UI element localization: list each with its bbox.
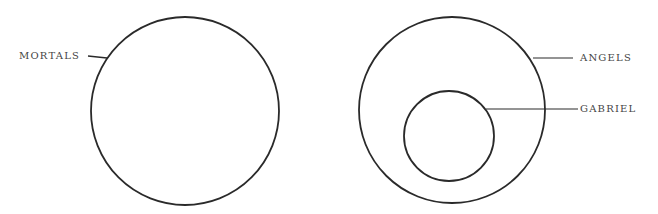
mortals-circle [91,17,279,205]
angels-label: ANGELS [580,52,632,63]
gabriel-circle [404,91,494,181]
angels-circle [359,17,545,203]
gabriel-label: GABRIEL [580,103,636,114]
mortals-leader-line [88,56,107,58]
diagram-canvas [0,0,658,214]
mortals-label: MORTALS [19,50,80,61]
